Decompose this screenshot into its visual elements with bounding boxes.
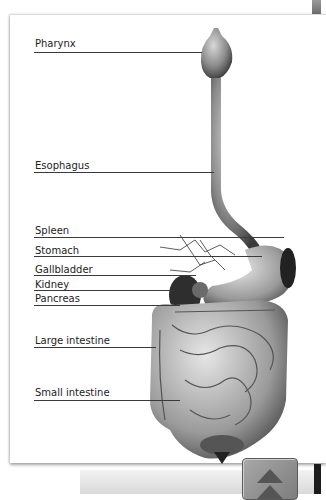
leader-line-stomach: [34, 256, 262, 257]
label-spleen: Spleen: [35, 225, 69, 237]
leader-line-spleen: [34, 237, 284, 238]
leader-line-gallbladder: [34, 275, 196, 276]
label-pharynx: Pharynx: [35, 38, 76, 50]
intestines-shape: [150, 300, 288, 459]
leader-line-large-intestine: [34, 347, 156, 348]
leader-line-kidney: [34, 290, 174, 291]
leader-line-pancreas: [34, 305, 180, 306]
label-small-intestine: Small intestine: [35, 387, 110, 399]
label-esophagus: Esophagus: [35, 160, 89, 172]
scroll-up-button[interactable]: [242, 458, 298, 500]
leader-line-esophagus: [34, 172, 214, 173]
leader-line-small-intestine: [34, 400, 180, 401]
esophagus-shape: [211, 78, 262, 254]
pharynx-shape: [201, 28, 232, 78]
spleen-shape: [280, 248, 296, 288]
label-large-intestine: Large intestine: [35, 335, 110, 347]
label-pancreas: Pancreas: [35, 293, 80, 305]
leader-line-pharynx: [34, 52, 202, 53]
